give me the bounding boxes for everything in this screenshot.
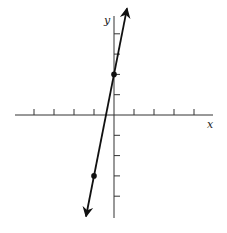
x-axis-label: x (207, 118, 214, 131)
line-y-equals-5x-plus-2 (86, 8, 127, 216)
y-axis-label: y (103, 14, 111, 27)
data-point (91, 173, 97, 179)
coordinate-plane: x y (0, 0, 227, 233)
line-series (86, 8, 127, 216)
data-point (111, 72, 117, 78)
